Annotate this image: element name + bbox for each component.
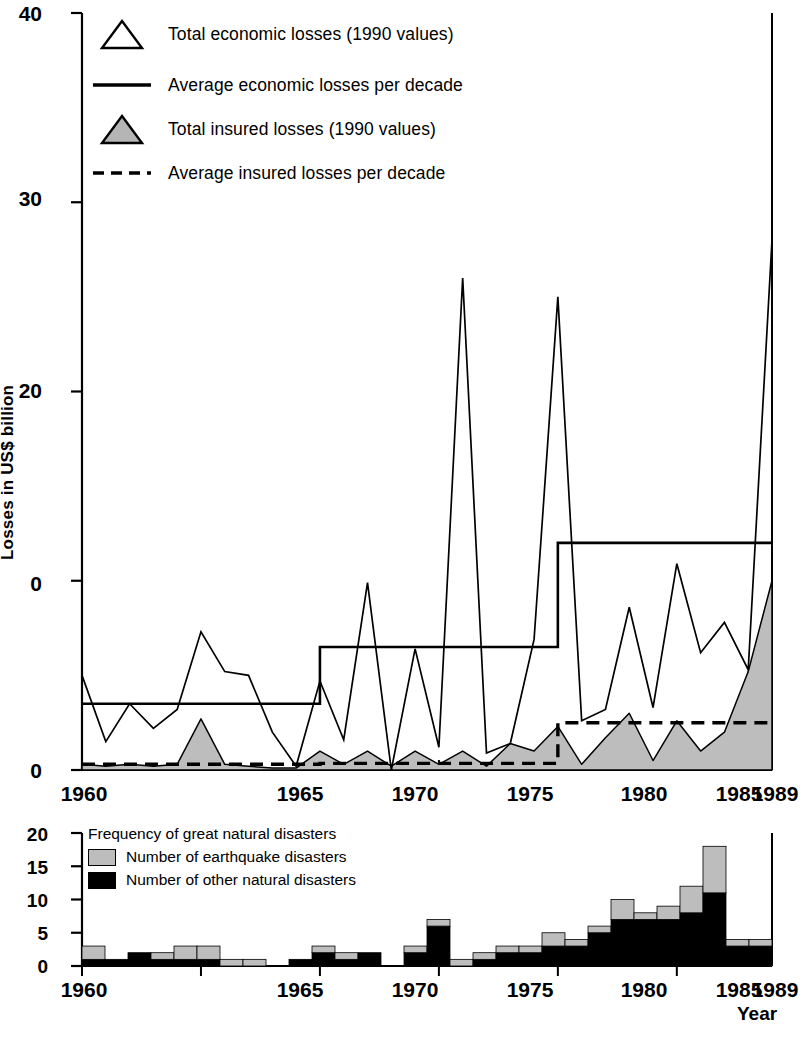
bottom-xtick-1989: 1989 — [735, 978, 803, 1002]
main-xtick-1985: 1985 — [699, 782, 779, 806]
